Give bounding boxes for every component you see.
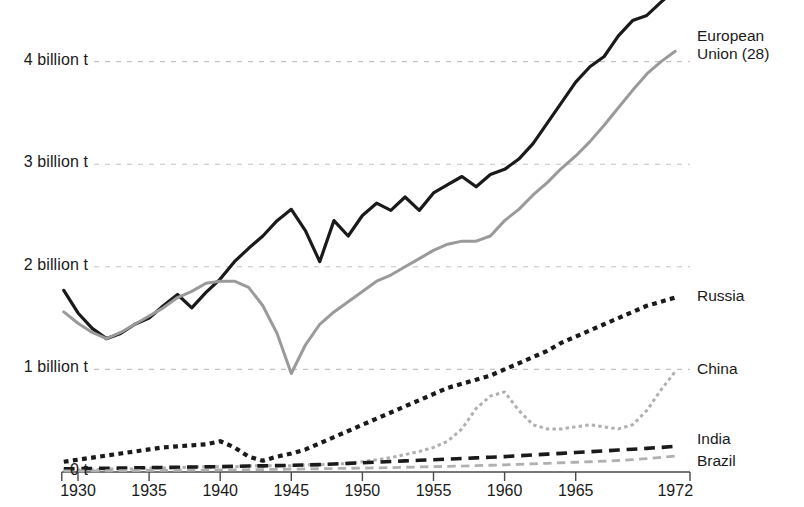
series-line-china [64,371,675,470]
series-label-brazil: Brazil [697,452,736,470]
x-axis-tick-label-3: 1945 [263,482,319,500]
series-line-russia [64,298,675,462]
series-label-european-union-28: EuropeanUnion (28) [697,27,769,63]
chart-container: 0 t1 billion t2 billion t3 billion t4 bi… [0,0,804,507]
series-label-china: China [697,360,738,378]
y-axis-tick-label-3: 3 billion t [0,153,88,171]
x-axis-tick-label-4: 1950 [334,482,390,500]
x-axis-tick-label-8: 1972 [647,482,703,500]
x-axis-tick-label-7: 1965 [548,482,604,500]
x-axis-tick-label-1: 1935 [121,482,177,500]
x-axis-tick-label-0: 1930 [50,482,106,500]
x-axis-tick-label-6: 1960 [477,482,533,500]
series-label-russia: Russia [697,287,744,305]
series-line-european-union-28 [64,51,675,373]
y-axis-tick-label-4: 4 billion t [0,51,88,69]
line-chart-plot [0,0,804,507]
x-axis-tick-label-5: 1955 [406,482,462,500]
y-axis-tick-label-0: 0 t [0,461,88,479]
y-axis-tick-label-2: 2 billion t [0,256,88,274]
series-label-india: India [697,430,731,448]
y-axis-tick-label-1: 1 billion t [0,358,88,376]
x-axis-tick-label-2: 1940 [192,482,248,500]
